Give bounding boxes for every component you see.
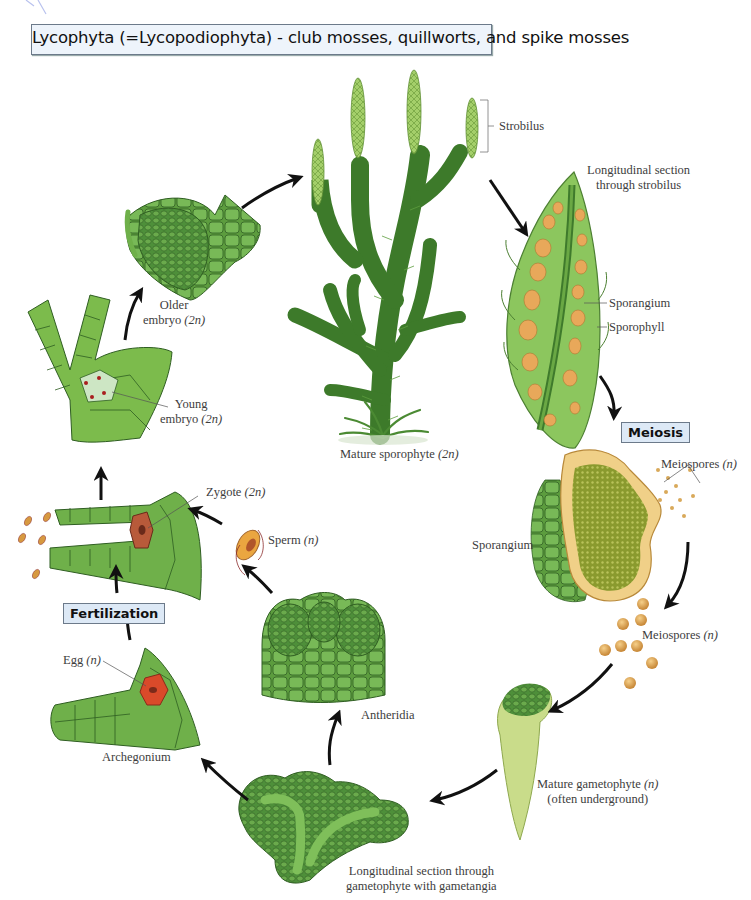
older-embryo-illustration [127,195,261,300]
young-embryo-label: Young embryo (2n) [160,397,222,427]
mature-sporophyte-label: Mature sporophyte (2n) [340,447,459,462]
strobilus-bracket [480,100,494,152]
fertilization-stage-box: Fertilization [63,603,165,624]
mature-gametophyte-label: Mature gametophyte (n) (often undergroun… [537,777,659,807]
meiospores-illustration [599,598,658,689]
sporangium-strobilus-label: Sporangium [609,296,670,311]
zygote-label: Zygote (2n) [206,485,265,500]
free-sperm-cluster [17,511,52,580]
strobilus-cones [312,70,478,205]
strobilus-label: Strobilus [499,119,544,134]
sporophyll-label: Sporophyll [609,320,665,335]
arrow-fertilization-to-zygote [116,570,117,593]
antheridia-label: Antheridia [361,708,414,723]
strobilus-section-illustration [502,172,609,448]
arrow-sporophyte-to-strobilus-section [490,180,525,232]
antheridia-illustration [262,593,385,703]
arrow-sperm-to-zygote [193,510,222,524]
arrow-section-to-antheridia [329,715,338,765]
egg-label: Egg (n) [63,653,101,668]
arrow-section-to-meiosis [600,376,614,415]
arrow-section-to-archegonium [205,762,248,800]
gametophyte-section-label: Longitudinal section through gametophyte… [346,864,497,894]
mature-sporophyte-illustration [295,70,494,445]
arrow-young-to-older-embryo [125,292,140,340]
arrow-older-to-sporophyte [242,178,298,208]
meiospores-bottom-label: Meiospores (n) [642,628,718,643]
strobilus-section-label: Longitudinal section through strobilus [587,163,690,193]
sporangium-illustration [531,450,700,602]
older-embryo-label: Older embryo (2n) [143,298,205,328]
meiosis-stage-box: Meiosis [621,422,690,443]
arrow-gametophyte-to-section [435,770,497,800]
sporangium-label: Sporangium [472,538,533,553]
sperm-label: Sperm (n) [268,533,318,548]
mature-gametophyte-illustration [498,684,552,840]
arrow-sporangium-to-meiospores [668,542,688,605]
zygote-archegonium-illustration [50,492,201,600]
arrow-meiospores-to-gametophyte [553,664,612,710]
arrow-antheridia-to-sperm [246,568,272,593]
meiospores-top-label: Meiospores (n) [661,457,737,472]
archegonium-label: Archegonium [102,750,171,765]
